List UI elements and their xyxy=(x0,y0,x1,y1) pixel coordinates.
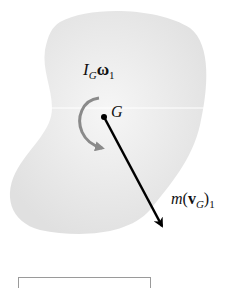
linear-momentum-label: m(vG)1 xyxy=(171,190,215,208)
center-of-mass-label: G xyxy=(111,103,123,121)
angular-momentum-label: IGω1 xyxy=(83,60,115,80)
center-of-mass-dot xyxy=(101,114,107,120)
bottom-frame xyxy=(18,277,151,288)
